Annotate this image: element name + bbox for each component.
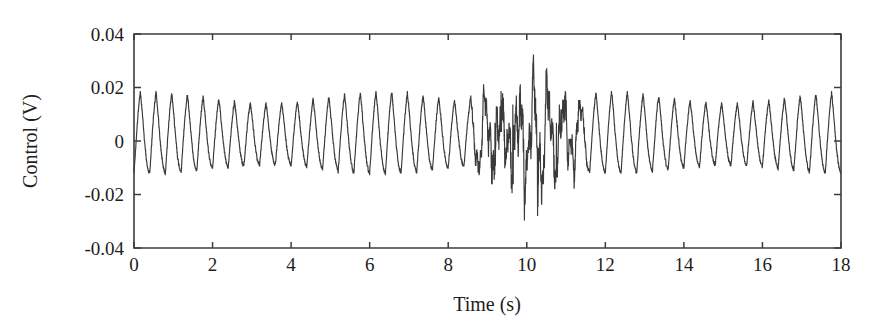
y-tick-label: 0.04 bbox=[91, 24, 125, 45]
figure-container: 024681012141618 -0.04-0.0200.020.04 Time… bbox=[0, 0, 889, 329]
x-tick-label: 6 bbox=[365, 254, 375, 275]
x-axis-title: Time (s) bbox=[453, 293, 521, 316]
x-tick-label: 12 bbox=[596, 254, 615, 275]
y-tick-label: 0.02 bbox=[91, 77, 124, 98]
x-tick-label: 14 bbox=[674, 254, 694, 275]
y-tick-label: -0.02 bbox=[84, 184, 124, 205]
control-voltage-plot: 024681012141618 -0.04-0.0200.020.04 Time… bbox=[0, 0, 889, 329]
x-tick-label: 4 bbox=[286, 254, 296, 275]
x-tick-label: 0 bbox=[129, 254, 139, 275]
y-axis-title: Control (V) bbox=[19, 94, 42, 188]
x-tick-label: 10 bbox=[517, 254, 536, 275]
x-tick-label: 16 bbox=[753, 254, 772, 275]
y-tick-label: 0 bbox=[115, 131, 125, 152]
x-tick-label: 18 bbox=[832, 254, 851, 275]
x-tick-label: 8 bbox=[443, 254, 453, 275]
y-tick-label: -0.04 bbox=[84, 238, 124, 259]
x-tick-label: 2 bbox=[208, 254, 218, 275]
